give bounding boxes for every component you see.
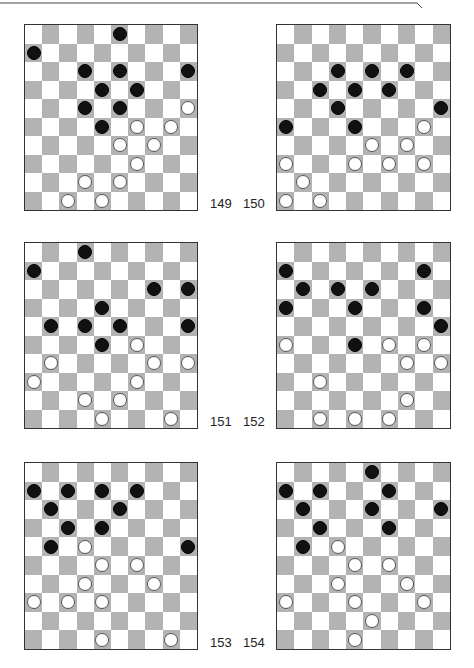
light-square [163, 354, 180, 373]
black-piece-icon [279, 301, 293, 315]
dark-square [128, 299, 145, 318]
dark-square [163, 336, 180, 355]
dark-square [111, 99, 128, 118]
light-square [163, 537, 180, 556]
dark-square [381, 556, 398, 575]
dark-square [59, 118, 76, 137]
light-square [398, 118, 415, 137]
light-square [363, 630, 380, 649]
white-piece-icon [95, 595, 109, 609]
white-piece-icon [95, 558, 109, 572]
light-square [163, 99, 180, 118]
dark-square [42, 537, 59, 556]
light-square [277, 575, 294, 594]
dark-square [312, 556, 329, 575]
light-square [363, 482, 380, 501]
dark-square [294, 612, 311, 631]
dark-square [94, 593, 111, 612]
light-square [42, 410, 59, 429]
dark-square [59, 336, 76, 355]
light-square [94, 391, 111, 410]
light-square [77, 192, 94, 211]
dark-square [77, 25, 94, 44]
board-label-150: 150 [243, 196, 265, 211]
dark-square [277, 556, 294, 575]
white-piece-icon [44, 356, 58, 370]
light-square [346, 391, 363, 410]
dark-square [128, 519, 145, 538]
white-piece-icon [95, 633, 109, 647]
light-square [25, 575, 42, 594]
light-square [163, 500, 180, 519]
dark-square [128, 630, 145, 649]
light-square [111, 299, 128, 318]
light-square [111, 118, 128, 137]
dark-square [398, 463, 415, 482]
white-piece-icon [78, 540, 92, 554]
light-square [42, 118, 59, 137]
dark-square [145, 537, 162, 556]
dark-square [294, 575, 311, 594]
light-square [111, 556, 128, 575]
black-piece-icon [130, 83, 144, 97]
light-square [398, 81, 415, 100]
light-square [381, 136, 398, 155]
dark-square [163, 373, 180, 392]
dark-square [277, 118, 294, 137]
dark-square [180, 62, 197, 81]
dark-square [415, 81, 432, 100]
dark-square [180, 280, 197, 299]
dark-square [312, 630, 329, 649]
light-square [433, 593, 450, 612]
white-piece-icon [382, 157, 396, 171]
dark-square [415, 410, 432, 429]
dark-square [415, 336, 432, 355]
white-piece-icon [164, 633, 178, 647]
light-square [59, 391, 76, 410]
white-piece-icon [113, 393, 127, 407]
light-square [145, 519, 162, 538]
dark-square [180, 537, 197, 556]
light-square [42, 630, 59, 649]
dark-square [277, 519, 294, 538]
black-piece-icon [434, 502, 448, 516]
dark-square [163, 192, 180, 211]
light-square [25, 317, 42, 336]
light-square [42, 593, 59, 612]
light-square [163, 317, 180, 336]
black-piece-icon [313, 83, 327, 97]
light-square [415, 136, 432, 155]
light-square [433, 373, 450, 392]
white-piece-icon [130, 375, 144, 389]
dark-square [94, 373, 111, 392]
light-square [25, 612, 42, 631]
dark-square [277, 262, 294, 281]
dark-square [94, 155, 111, 174]
light-square [111, 373, 128, 392]
dark-square [329, 537, 346, 556]
light-square [294, 373, 311, 392]
light-square [312, 136, 329, 155]
dark-square [180, 463, 197, 482]
light-square [433, 519, 450, 538]
light-square [415, 173, 432, 192]
white-piece-icon [181, 356, 195, 370]
light-square [77, 81, 94, 100]
black-piece-icon [27, 46, 41, 60]
black-piece-icon [279, 484, 293, 498]
dark-square [398, 500, 415, 519]
light-square [59, 280, 76, 299]
light-square [180, 593, 197, 612]
dark-square [77, 463, 94, 482]
light-square [398, 192, 415, 211]
light-square [25, 243, 42, 262]
dark-square [433, 173, 450, 192]
light-square [145, 44, 162, 63]
light-square [25, 25, 42, 44]
dark-square [363, 500, 380, 519]
white-piece-icon [130, 120, 144, 134]
light-square [277, 99, 294, 118]
white-piece-icon [27, 595, 41, 609]
light-square [415, 280, 432, 299]
dark-square [415, 262, 432, 281]
